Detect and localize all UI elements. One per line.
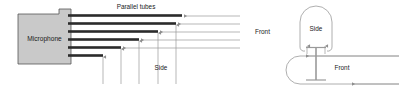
left-diagram: Microphone Parallel tubes Front Side — [18, 3, 270, 84]
tube-2 — [68, 22, 176, 25]
side-lobe-foot-right — [327, 47, 332, 51]
parallel-tubes-label: Parallel tubes — [117, 3, 156, 10]
tube-4 — [68, 38, 139, 41]
tube-5 — [68, 46, 121, 49]
right-diagram: Side Front — [286, 6, 399, 84]
side-sound-rays — [103, 25, 176, 84]
front-label-right: Front — [335, 64, 350, 71]
side-label-left: Side — [155, 64, 168, 71]
figure-canvas: Microphone Parallel tubes Front Side — [0, 0, 399, 97]
tube-3 — [68, 30, 158, 33]
front-label-left: Front — [255, 28, 270, 35]
tube-1 — [68, 14, 182, 17]
microphone-label: Microphone — [27, 35, 62, 43]
diagram-svg: Microphone Parallel tubes Front Side — [0, 0, 399, 97]
side-lobe-foot-left — [300, 47, 305, 51]
side-label-right: Side — [310, 25, 323, 32]
parallel-tubes — [68, 14, 182, 57]
tube-6 — [68, 54, 103, 57]
